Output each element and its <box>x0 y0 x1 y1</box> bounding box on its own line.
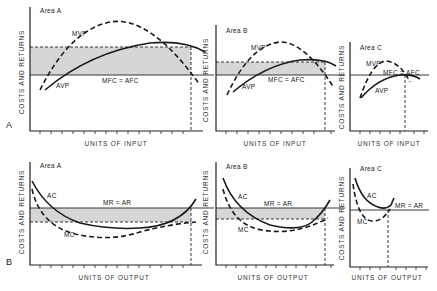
shaded-region <box>30 47 191 75</box>
ac-label: AC <box>367 192 377 199</box>
panel-output-area-c: Area C AC MC MR = AR COSTS AND RETURNS U… <box>338 165 429 281</box>
mvp-label: MVP <box>72 30 87 37</box>
x-axis-label: UNITS OF INPUT <box>85 140 148 147</box>
avp-label: AVP <box>375 87 388 94</box>
panel-title: Area C <box>360 44 382 51</box>
mc-label: MC <box>238 226 249 233</box>
mr-ar-label: MR = AR <box>103 199 131 206</box>
panel-input-area-b: Area B MVP AVP MFC = AFC COSTS AND RETUR… <box>202 25 345 147</box>
y-axis-label: COSTS AND RETURNS <box>338 45 345 129</box>
panel-title: Area B <box>226 27 248 34</box>
row-label-b: B <box>6 257 12 267</box>
mfc-afc-label: MFC = AFC <box>268 76 305 83</box>
shaded-region <box>216 208 325 219</box>
mc-label: MC <box>64 231 75 238</box>
afc-label: AFC <box>406 69 420 76</box>
panel-title: Area A <box>40 7 62 14</box>
ac-label: AC <box>238 193 248 200</box>
panel-output-area-a: Area A AC MC MR = AR COSTS AND RETURNS U… <box>18 162 214 281</box>
y-axis-label: COSTS AND RETURNS <box>18 170 25 254</box>
mr-ar-label: MR = AR <box>264 200 292 207</box>
avp-curve <box>361 75 420 98</box>
mfc-label: MFC = <box>383 69 404 76</box>
panel-output-area-b: Area B AC MC MR = AR COSTS AND RETURNS U… <box>202 162 345 281</box>
y-axis-label: COSTS AND RETURNS <box>338 176 345 260</box>
panel-title: Area A <box>40 162 62 169</box>
panel-input-area-c: Area C MVP AVP MFC = AFC COSTS AND RETUR… <box>338 42 429 147</box>
shaded-region <box>30 208 191 222</box>
panel-title: Area B <box>226 163 248 170</box>
mc-label: MC <box>357 218 368 225</box>
x-axis-label: UNITS OF OUTPUT <box>238 274 309 281</box>
avp-label: AVP <box>56 82 69 89</box>
panel-input-area-a: Area A MVP AVP MFC = AFC COSTS AND RETUR… <box>18 7 214 147</box>
x-axis-label: UNITS OF INPUT <box>358 140 421 147</box>
mvp-label: MVP <box>366 60 381 67</box>
axes <box>350 42 428 131</box>
x-axis-label: UNITS OF OUTPUT <box>79 274 150 281</box>
ac-label: AC <box>47 192 57 199</box>
mfc-afc-label: MFC = AFC <box>102 77 139 84</box>
mr-ar-label: MR = AR <box>395 202 423 209</box>
x-axis-label: UNITS OF INPUT <box>244 140 307 147</box>
avp-label: AVP <box>242 83 255 90</box>
panel-title: Area C <box>360 165 382 172</box>
x-axis-label: UNITS OF OUTPUT <box>352 274 423 281</box>
y-axis-label: COSTS AND RETURNS <box>18 30 25 114</box>
y-axis-label: COSTS AND RETURNS <box>202 38 209 122</box>
row-label-a: A <box>6 120 12 130</box>
y-axis-label: COSTS AND RETURNS <box>202 170 209 254</box>
mvp-label: MVP <box>251 44 266 51</box>
economics-diagram: A Area A MVP AVP MFC = AFC COSTS AND RET… <box>0 0 437 291</box>
